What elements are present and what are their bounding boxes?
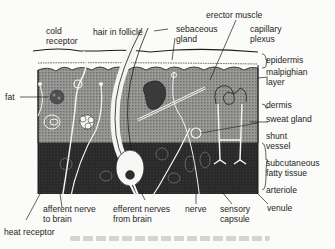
label-sensory-capsule: sensorycapsule xyxy=(220,204,250,224)
epidermis-layer xyxy=(33,49,258,64)
label-erector-muscle: erector muscle xyxy=(206,10,262,20)
label-sweat-gland: sweat gland xyxy=(266,114,312,124)
label-nerve: nerve xyxy=(185,204,207,214)
label-sebaceous-gland: sebaceousgland xyxy=(176,24,218,44)
fat-cluster xyxy=(50,90,64,104)
figure-caption-blurred xyxy=(70,236,270,241)
subcutaneous-layer xyxy=(38,143,258,194)
label-afferent-nerve: afferent nerveto brain xyxy=(43,204,96,224)
label-epidermis: epidermis xyxy=(266,55,303,65)
label-hair-in-follicle: hair in follicle xyxy=(93,27,143,37)
label-arteriole: arteriole xyxy=(266,185,297,195)
label-capillary-plexus: capillaryplexus xyxy=(250,24,282,44)
label-malpighian-layer: malpighianlayer xyxy=(266,67,308,87)
sensory-capsule-upper xyxy=(80,115,94,129)
label-cold-receptor: coldreceptor xyxy=(46,26,78,46)
label-shunt-vessel: shuntvessel xyxy=(266,131,290,151)
label-heat-receptor: heat receptor xyxy=(4,227,55,237)
label-venule: venule xyxy=(267,203,292,213)
label-fat: fat xyxy=(5,92,15,102)
label-efferent-nerves: efferent nervesfrom brain xyxy=(113,204,170,224)
label-subcutaneous-fatty-tissue: subcutaneousfatty tissue xyxy=(266,158,320,178)
label-dermis: dermis xyxy=(266,100,292,110)
